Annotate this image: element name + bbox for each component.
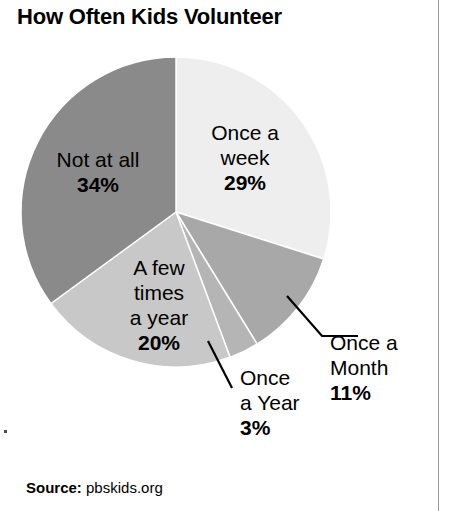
slice-value: 29% [186, 170, 304, 195]
slice-label-line: A few [104, 255, 214, 280]
slice-label-line: Not at all [32, 147, 164, 172]
slice-value: 3% [240, 415, 336, 440]
slice-label-line: Once [240, 365, 336, 390]
slice-label-line: times [104, 280, 214, 305]
slice-label-not-at-all: Not at all 34% [32, 147, 164, 197]
slice-label-line: Once a [330, 330, 450, 355]
slice-label-once-a-week: Once a week 29% [186, 120, 304, 195]
slice-label-once-a-year: Once a Year 3% [240, 365, 336, 440]
slice-value: 20% [104, 330, 214, 355]
source-value: pbskids.org [86, 479, 163, 496]
slice-label-line: a year [104, 305, 214, 330]
slice-label-line: a Year [240, 390, 336, 415]
source-note: Source: pbskids.org [26, 479, 163, 496]
source-label: Source: [26, 479, 82, 496]
slice-value: 11% [330, 380, 450, 405]
chart-page: How Often Kids Volunteer Once a week 29%… [0, 0, 455, 511]
slice-label-line: Once a [186, 120, 304, 145]
slice-label-line: week [186, 145, 304, 170]
slice-label-once-a-month: Once a Month 11% [330, 330, 450, 405]
slice-value: 34% [32, 172, 164, 197]
slice-label-a-few-times-a-year: A few times a year 20% [104, 255, 214, 355]
slice-label-line: Month [330, 355, 450, 380]
scan-artifact-mark [4, 430, 7, 433]
